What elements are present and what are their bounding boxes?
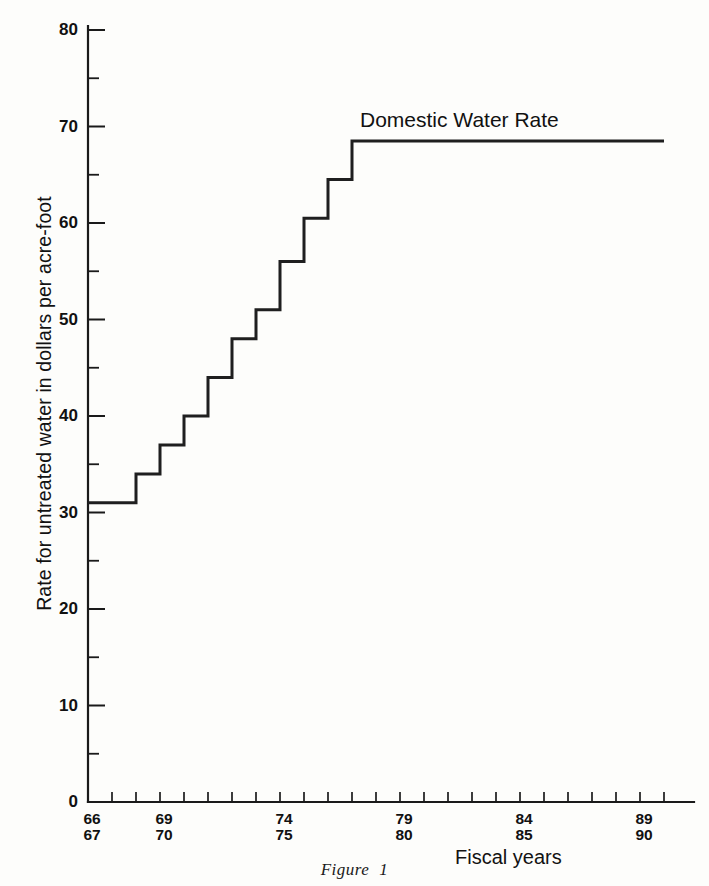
x-tick-label-top: 74: [275, 810, 293, 827]
chart-plot-area: 01020304050607080 6667697074757980848589…: [0, 0, 709, 886]
y-tick-label: 80: [59, 20, 78, 39]
y-tick-label: 60: [59, 213, 78, 232]
x-tick-label-bottom: 80: [395, 826, 412, 843]
x-tick-label-bottom: 67: [83, 826, 100, 843]
figure-caption-number: 1: [379, 860, 388, 879]
y-tick-label: 10: [59, 696, 78, 715]
x-tick-label-top: 89: [635, 810, 653, 827]
figure-caption: Figure1: [0, 860, 709, 880]
x-tick-label-top: 84: [515, 810, 533, 827]
x-tick-label-bottom: 70: [155, 826, 172, 843]
y-tick-label: 20: [59, 599, 78, 618]
figure-caption-label: Figure: [321, 860, 370, 879]
x-tick-label-top: 66: [83, 810, 101, 827]
x-tick-label-top: 79: [395, 810, 413, 827]
y-axis-title: Rate for untreated water in dollars per …: [33, 74, 56, 734]
y-tick-label: 30: [59, 503, 78, 522]
x-tick-label-bottom: 75: [275, 826, 293, 843]
y-tick-label: 50: [59, 310, 78, 329]
x-axis-tick-labels: 666769707475798084858990: [83, 810, 653, 843]
data-series-group: [88, 141, 664, 503]
figure-container: 01020304050607080 6667697074757980848589…: [0, 0, 709, 886]
x-tick-label-top: 69: [155, 810, 173, 827]
y-axis-ticks: [88, 30, 105, 802]
y-tick-label: 0: [69, 792, 78, 811]
x-tick-label-bottom: 90: [635, 826, 652, 843]
domestic-water-rate-step-line: [88, 141, 664, 503]
x-axis-ticks: [88, 792, 664, 802]
x-tick-label-bottom: 85: [515, 826, 533, 843]
y-tick-label: 70: [59, 117, 78, 136]
y-axis-tick-labels: 01020304050607080: [59, 20, 78, 811]
y-tick-label: 40: [59, 406, 78, 425]
series-annotation-label: Domestic Water Rate: [360, 108, 559, 132]
